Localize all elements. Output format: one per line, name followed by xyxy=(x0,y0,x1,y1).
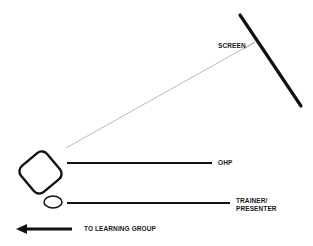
learning-group-label: TO LEARNING GROUP xyxy=(84,225,156,233)
screen-label: SCREEN xyxy=(218,42,246,50)
ohp-label: OHP xyxy=(218,159,232,167)
learning-group-arrow-head xyxy=(16,224,27,234)
screen-shape xyxy=(240,15,301,106)
trainer-shape xyxy=(44,196,62,208)
ohp-shape xyxy=(17,149,65,197)
trainer-label-line2: PRESENTER xyxy=(236,205,277,213)
trainer-label-line1: TRAINER/ xyxy=(236,197,268,205)
projection-beam xyxy=(66,42,255,148)
